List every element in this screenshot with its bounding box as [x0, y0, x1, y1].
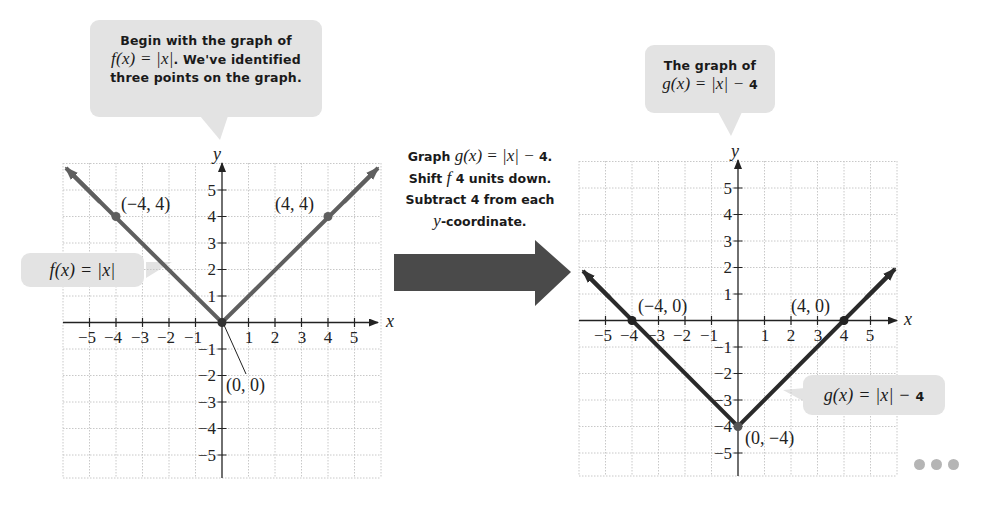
more-options-button[interactable]: [914, 459, 959, 470]
x-tick-labels-g: −5−4−3 −2−1 123 45: [594, 326, 874, 345]
svg-text:−2: −2: [714, 364, 732, 383]
point-0-neg4: [734, 422, 743, 431]
svg-text:2: 2: [787, 326, 796, 345]
dot-icon: [948, 459, 959, 470]
graph-g: −5−4−3 −2−1 123 45 543 21 −1−2−3 −4−5 y …: [0, 0, 990, 505]
svg-text:−1: −1: [714, 338, 732, 357]
svg-text:(4, 0): (4, 0): [791, 296, 830, 317]
svg-text:(−4, 0): (−4, 0): [638, 296, 687, 317]
svg-text:(0, −4): (0, −4): [745, 428, 794, 449]
svg-text:5: 5: [724, 179, 733, 198]
dot-icon: [914, 459, 925, 470]
svg-text:1: 1: [724, 285, 733, 304]
svg-text:−5: −5: [594, 326, 612, 345]
svg-text:−2: −2: [673, 326, 691, 345]
dot-icon: [931, 459, 942, 470]
svg-text:4: 4: [724, 205, 733, 224]
svg-text:5: 5: [866, 326, 875, 345]
svg-text:1: 1: [761, 326, 770, 345]
svg-text:3: 3: [724, 232, 733, 251]
svg-text:x: x: [903, 309, 912, 329]
point-4-0: [840, 316, 849, 325]
svg-text:−4: −4: [620, 326, 639, 345]
point-neg4-0: [628, 316, 637, 325]
svg-text:4: 4: [840, 326, 849, 345]
svg-text:y: y: [729, 141, 739, 161]
svg-text:2: 2: [724, 258, 733, 277]
label-g-of-x: g(x) = |x| − 4: [803, 375, 945, 415]
svg-text:−5: −5: [714, 444, 732, 463]
